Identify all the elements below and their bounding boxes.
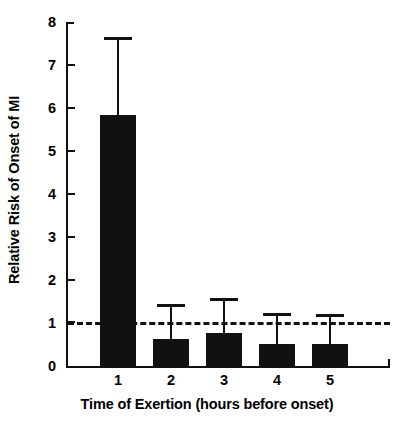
y-axis-line (66, 22, 68, 368)
errorbar-cap-2 (157, 304, 185, 307)
y-tick-mark-4 (68, 193, 75, 195)
y-axis-title-text: Relative Risk of Onset of MI (6, 96, 22, 284)
y-tick-label-7: 7 (34, 58, 56, 73)
y-tick-label-1: 1 (34, 316, 56, 331)
y-tick-mark-6 (68, 107, 75, 109)
errorbar-cap-5 (316, 314, 344, 317)
errorbar-cap-4 (263, 313, 291, 316)
x-axis-right-cap (388, 359, 390, 367)
y-tick-mark-2 (68, 279, 75, 281)
bar-4 (259, 344, 295, 366)
y-axis-top-cap (66, 22, 74, 24)
x-tick-label-2: 2 (153, 373, 189, 388)
y-tick-label-0: 0 (34, 359, 56, 374)
y-tick-mark-7 (68, 64, 75, 66)
x-tick-label-1: 1 (100, 373, 136, 388)
errorbar-stem-2 (170, 304, 172, 341)
x-axis-line (66, 366, 390, 368)
chart-figure: Relative Risk of Onset of MI 8 7 6 5 4 3… (0, 0, 414, 437)
y-tick-label-5: 5 (34, 144, 56, 159)
x-axis-title: Time of Exertion (hours before onset) (0, 396, 414, 412)
x-tick-label-5: 5 (312, 373, 348, 388)
bar-3 (206, 333, 242, 366)
bar-1 (100, 115, 136, 366)
bar-5 (312, 344, 348, 366)
y-tick-label-3: 3 (34, 230, 56, 245)
x-tick-label-4: 4 (259, 373, 295, 388)
y-tick-mark-3 (68, 236, 75, 238)
y-tick-label-4: 4 (34, 187, 56, 202)
errorbar-cap-3 (210, 298, 238, 301)
bar-2 (153, 339, 189, 366)
errorbar-stem-1 (117, 37, 119, 117)
x-tick-label-3: 3 (206, 373, 242, 388)
y-axis-title: Relative Risk of Onset of MI (0, 0, 28, 380)
errorbar-stem-4 (276, 313, 278, 346)
y-tick-mark-5 (68, 150, 75, 152)
y-tick-label-8: 8 (34, 15, 56, 30)
y-tick-label-6: 6 (34, 101, 56, 116)
errorbar-stem-3 (223, 298, 225, 335)
errorbar-cap-1 (104, 37, 132, 40)
y-tick-label-2: 2 (34, 273, 56, 288)
errorbar-stem-5 (329, 314, 331, 346)
